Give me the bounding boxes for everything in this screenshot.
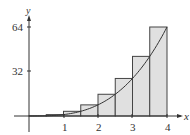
- y-axis-label: y: [25, 5, 31, 16]
- x-tick-3: 3: [130, 121, 136, 133]
- x-tick-4: 4: [165, 121, 171, 133]
- x-axis-arrow-icon: [177, 114, 183, 118]
- x-tick-2: 2: [96, 121, 102, 133]
- riemann-rectangle: [150, 27, 167, 116]
- riemann-sum-chart: 1 2 3 4 32 64 x y: [0, 0, 190, 135]
- riemann-rectangle: [115, 78, 132, 116]
- y-tick-64: 64: [12, 21, 24, 33]
- riemann-rectangle: [133, 56, 150, 116]
- x-axis-label: x: [183, 110, 189, 122]
- riemann-rectangles: [29, 27, 167, 116]
- riemann-rectangle: [98, 94, 115, 116]
- x-tick-1: 1: [62, 121, 68, 133]
- y-tick-32: 32: [12, 65, 23, 77]
